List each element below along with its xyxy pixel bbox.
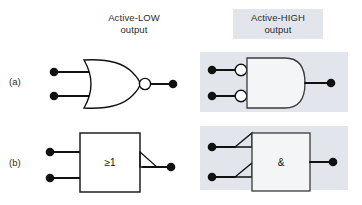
and-gate-body bbox=[247, 58, 305, 108]
output-terminal-dot bbox=[329, 158, 338, 167]
gate-row-b-right-iec-and: & bbox=[208, 133, 338, 191]
gate-row-a-right-and-inverted-inputs bbox=[208, 58, 336, 108]
input-terminal-dot bbox=[50, 68, 59, 77]
output-terminal-dot bbox=[327, 79, 336, 88]
input-inversion-bubble bbox=[235, 64, 247, 76]
input-terminal-dot bbox=[46, 148, 55, 157]
output-terminal-dot bbox=[169, 80, 178, 89]
input-terminal-dot bbox=[208, 173, 217, 182]
input-polarity-triangle bbox=[235, 163, 252, 177]
input-terminal-dot bbox=[46, 174, 55, 183]
gate-function-label: & bbox=[278, 157, 285, 168]
output-inversion-bubble bbox=[139, 78, 150, 89]
input-terminal-dot bbox=[208, 92, 217, 101]
output-polarity-triangle bbox=[140, 152, 157, 167]
input-polarity-triangle bbox=[235, 133, 252, 147]
schematic-canvas: ≥1 & bbox=[0, 0, 362, 205]
or-gate-body bbox=[84, 60, 140, 109]
gate-row-a-left-nor bbox=[50, 60, 178, 109]
logic-gate-equivalence-figure: Active-LOW output Active-HIGH output (a)… bbox=[0, 0, 362, 205]
gate-function-label: ≥1 bbox=[104, 157, 115, 168]
input-terminal-dot bbox=[50, 92, 59, 101]
input-terminal-dot bbox=[208, 143, 217, 152]
output-terminal-dot bbox=[167, 163, 176, 172]
gate-row-b-left-iec-or: ≥1 bbox=[46, 133, 176, 192]
input-terminal-dot bbox=[208, 66, 217, 75]
input-inversion-bubble bbox=[235, 90, 247, 102]
